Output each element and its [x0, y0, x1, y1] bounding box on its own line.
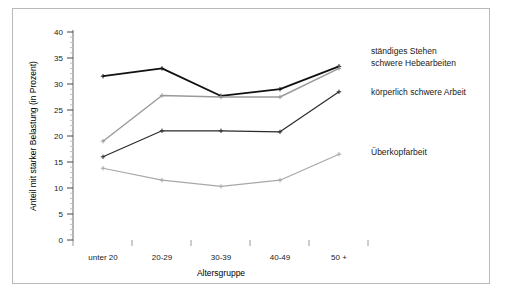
- y-tick-label: 0: [59, 236, 64, 245]
- y-tick-label: 5: [59, 210, 64, 219]
- x-tick-label: 40-49: [270, 253, 291, 262]
- series-label-3: Überkopfarbeit: [371, 147, 427, 157]
- series-line: [103, 92, 339, 157]
- y-tick-label: 15: [54, 158, 63, 167]
- series-label-layer: ständiges Stehenschwere Hebearbeitenkörp…: [371, 46, 467, 157]
- x-tick-label: 20-29: [152, 253, 173, 262]
- x-tick-label: 30-39: [211, 253, 232, 262]
- y-tick-label: 40: [54, 28, 63, 37]
- x-axis-tick-labels: unter 20 20-29 30-39 40-49 50 +: [88, 253, 347, 262]
- y-axis-tick-labels: 40 35 30 25 20 15 10 5 0: [54, 28, 63, 245]
- series-line: [103, 154, 339, 186]
- data-series-layer: [101, 64, 341, 189]
- series-label-2: körperlich schwere Arbeit: [371, 87, 467, 97]
- x-axis-ticks: [73, 240, 368, 246]
- series-label-0: ständiges Stehen: [371, 46, 437, 56]
- series-line: [103, 66, 339, 96]
- series-label-1: schwere Hebearbeiten: [371, 58, 456, 68]
- x-tick-label: 50 +: [331, 253, 347, 262]
- y-axis-title: Anteil mit starker Belastung (in Prozent…: [28, 61, 38, 211]
- x-axis-title: Altersgruppe: [197, 268, 245, 278]
- y-tick-label: 35: [54, 54, 63, 63]
- y-tick-label: 25: [54, 106, 63, 115]
- line-chart-canvas: 40 35 30 25 20 15 10 5 0 unter 20 20-29 …: [0, 0, 507, 298]
- y-tick-label: 30: [54, 80, 63, 89]
- y-tick-label: 20: [54, 132, 63, 141]
- y-tick-label: 10: [54, 184, 63, 193]
- chart-figure: 40 35 30 25 20 15 10 5 0 unter 20 20-29 …: [0, 0, 507, 298]
- x-tick-label: unter 20: [88, 253, 118, 262]
